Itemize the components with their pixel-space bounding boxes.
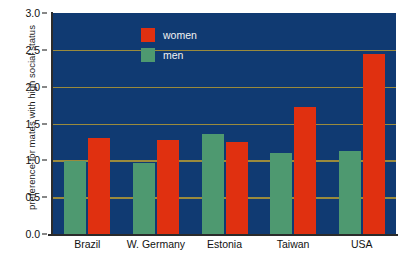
bar-women-usa xyxy=(363,54,385,234)
y-axis-tick-label: 1.0 xyxy=(0,154,40,166)
y-axis-tick-mark xyxy=(42,160,47,161)
bar-group xyxy=(64,13,110,234)
legend-label-women: women xyxy=(163,29,197,41)
y-axis-tick-mark xyxy=(42,123,47,124)
bar-men-usa xyxy=(339,151,361,234)
y-axis-tick-mark xyxy=(42,86,47,87)
y-axis-tick-label: 2.5 xyxy=(0,44,40,56)
bar-group xyxy=(339,13,385,234)
x-axis-tick-label: Taiwan xyxy=(277,238,310,250)
legend-item-women: women xyxy=(141,26,231,43)
x-axis-tick-label: Estonia xyxy=(207,238,242,250)
legend-item-men: men xyxy=(141,46,231,63)
bar-women-w-germany xyxy=(157,140,179,234)
x-axis-tick-label: USA xyxy=(351,238,373,250)
bar-women-brazil xyxy=(88,138,110,235)
y-axis-tick-mark xyxy=(42,13,47,14)
y-axis-tick-mark xyxy=(42,234,47,235)
x-axis-tick-labels: BrazilW. GermanyEstoniaTaiwanUSA xyxy=(53,238,396,258)
legend-swatch-men xyxy=(141,48,155,62)
x-axis-tick-label: W. Germany xyxy=(127,238,185,250)
bar-chart: preference for mates with high social st… xyxy=(0,0,414,259)
x-axis-line xyxy=(48,234,398,236)
bar-men-taiwan xyxy=(270,153,292,234)
y-axis-tick-label: 0.0 xyxy=(0,228,40,240)
legend-swatch-women xyxy=(141,28,155,42)
y-axis-tick-label: 2.0 xyxy=(0,81,40,93)
bar-women-taiwan xyxy=(294,107,316,234)
y-axis-tick-label: 1.5 xyxy=(0,118,40,130)
y-axis-tick-label: 0.5 xyxy=(0,191,40,203)
bar-men-brazil xyxy=(64,161,86,234)
bar-men-w-germany xyxy=(133,163,155,234)
legend-label-men: men xyxy=(163,49,183,61)
y-axis-tick-labels: 0.00.51.01.52.02.53.0 xyxy=(0,0,48,259)
bar-women-estonia xyxy=(226,142,248,234)
y-axis-tick-mark xyxy=(42,197,47,198)
bar-group xyxy=(270,13,316,234)
bar-men-estonia xyxy=(202,134,224,234)
chart-legend: womenmen xyxy=(141,26,231,66)
plot-area: womenmen xyxy=(53,13,396,234)
y-axis-tick-label: 3.0 xyxy=(0,7,40,19)
x-axis-tick-label: Brazil xyxy=(74,238,100,250)
y-axis-tick-mark xyxy=(42,49,47,50)
